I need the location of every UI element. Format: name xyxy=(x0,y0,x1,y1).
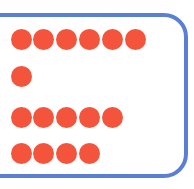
dot-r1-c6 xyxy=(125,29,146,50)
dot-r4-c4 xyxy=(79,143,100,164)
dot-r3-c1 xyxy=(11,107,32,128)
dot-r3-c5 xyxy=(102,107,123,128)
figure-root xyxy=(0,0,194,189)
dot-grid xyxy=(0,0,194,189)
dot-r2-c1 xyxy=(11,66,32,87)
dot-r4-c2 xyxy=(33,143,54,164)
dot-r3-c4 xyxy=(79,107,100,128)
dot-r1-c4 xyxy=(79,29,100,50)
dot-r1-c2 xyxy=(33,29,54,50)
dot-r4-c3 xyxy=(56,143,77,164)
dot-r3-c2 xyxy=(33,107,54,128)
dot-r4-c1 xyxy=(11,143,32,164)
dot-r3-c3 xyxy=(56,107,77,128)
dot-r1-c3 xyxy=(56,29,77,50)
dot-r1-c5 xyxy=(102,29,123,50)
dot-r1-c1 xyxy=(11,29,32,50)
